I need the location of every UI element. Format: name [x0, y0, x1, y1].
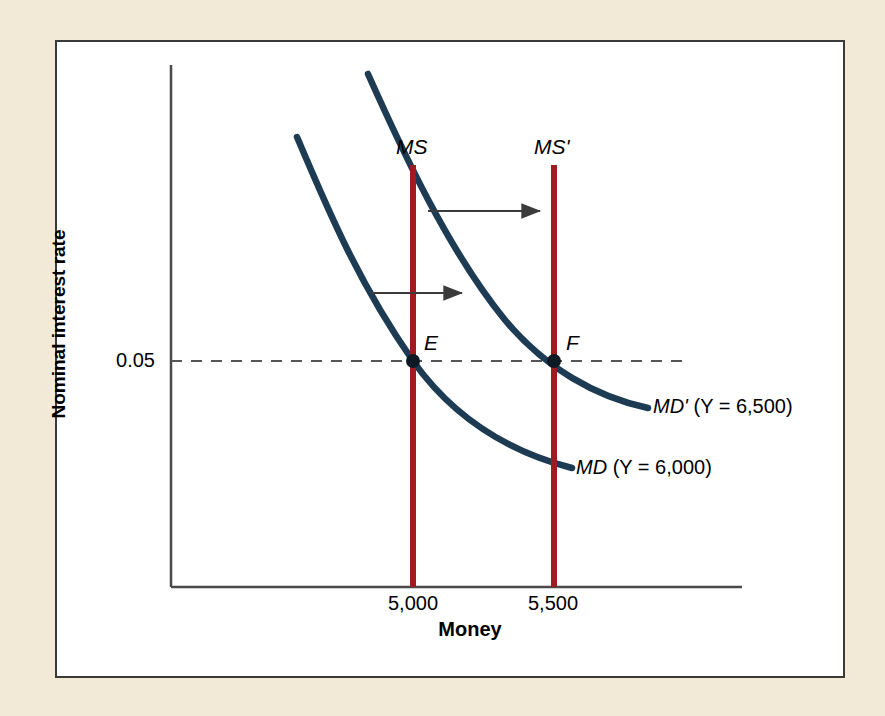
- md-income: (Y = 6,000): [607, 456, 712, 478]
- y-axis-title: Nominal interest rate: [48, 199, 70, 449]
- x-tick-label-5000: 5,000: [358, 592, 468, 615]
- md-prime-income: (Y = 6,500): [688, 395, 793, 417]
- equilibrium-point-e: [406, 354, 420, 368]
- md-symbol: MD: [576, 456, 607, 478]
- point-e-label: E: [424, 331, 438, 355]
- equilibrium-point-f: [547, 354, 561, 368]
- md-curve-label: MD (Y = 6,000): [576, 456, 712, 479]
- md-prime-symbol: MD': [653, 395, 688, 417]
- point-f-label: F: [566, 331, 579, 355]
- x-tick-label-5500: 5,500: [498, 592, 608, 615]
- y-tick-label-005: 0.05: [55, 349, 155, 372]
- md-curve: [297, 137, 572, 468]
- ms-prime-curve-label: MS': [534, 135, 570, 159]
- md-prime-curve-label: MD' (Y = 6,500): [653, 395, 793, 418]
- ms-curve-label: MS: [396, 135, 428, 159]
- x-axis-title: Money: [390, 618, 550, 641]
